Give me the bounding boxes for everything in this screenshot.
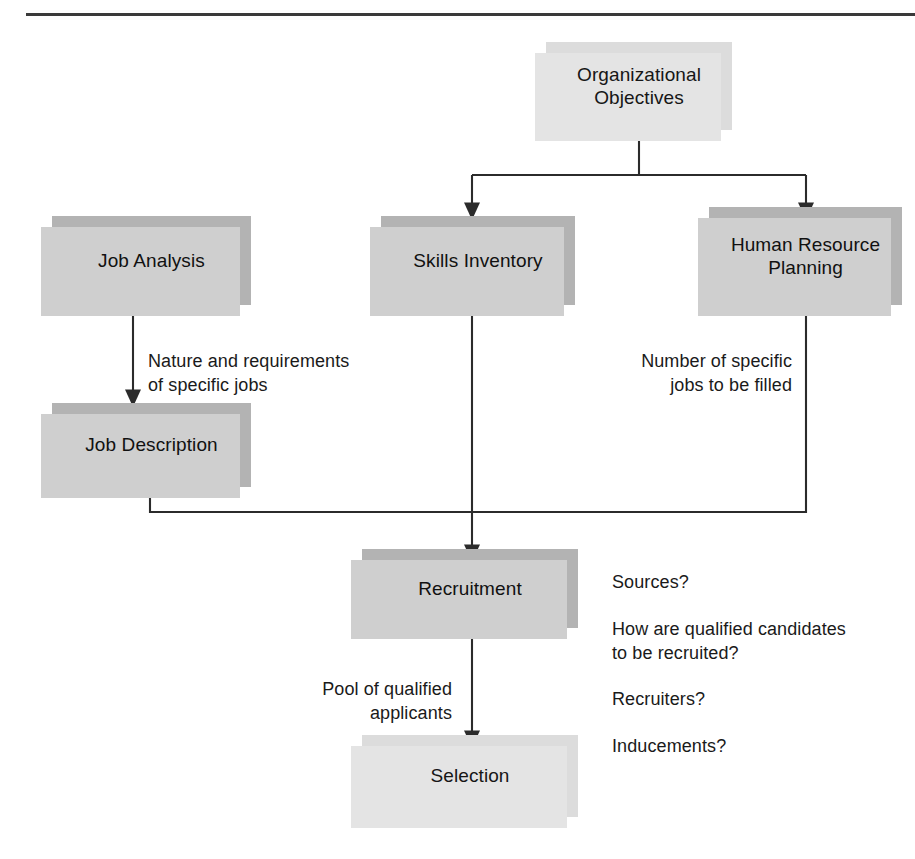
annotation-number-of-specific-jobs: Number of specific jobs to be filled — [570, 327, 792, 397]
annotation-text: Number of specific jobs to be filled — [641, 351, 792, 394]
node-label: Job Analysis — [92, 249, 211, 272]
node-recruitment[interactable]: Recruitment — [362, 549, 578, 628]
node-organizational-objectives[interactable]: Organizational Objectives — [546, 42, 732, 130]
node-skills-inventory[interactable]: Skills Inventory — [381, 216, 575, 305]
node-human-resource-planning[interactable]: Human Resource Planning — [709, 207, 902, 305]
diagram-canvas: Organizational Objectives Job Analysis S… — [0, 0, 915, 859]
node-selection[interactable]: Selection — [362, 735, 578, 817]
recruitment-questions-list: Sources? How are qualified candidates to… — [612, 548, 902, 782]
node-label: Selection — [424, 764, 515, 787]
annotation-pool-of-qualified-applicants: Pool of qualified applicants — [228, 655, 452, 725]
recruitment-question-recruiters: Recruiters? — [612, 688, 902, 711]
node-job-description[interactable]: Job Description — [52, 403, 251, 487]
node-label: Skills Inventory — [407, 249, 548, 272]
node-job-analysis[interactable]: Job Analysis — [52, 216, 251, 305]
recruitment-question-how-recruited: How are qualified candidates to be recru… — [612, 618, 902, 665]
annotation-text: Pool of qualified applicants — [322, 679, 452, 722]
recruitment-question-sources: Sources? — [612, 571, 902, 594]
recruitment-question-inducements: Inducements? — [612, 735, 902, 758]
node-label: Organizational Objectives — [571, 63, 707, 109]
node-label: Human Resource Planning — [725, 233, 886, 279]
node-label: Recruitment — [412, 577, 528, 600]
annotation-text: Nature and requirements of specific jobs — [148, 351, 349, 394]
annotation-nature-and-requirements: Nature and requirements of specific jobs — [148, 327, 398, 397]
node-label: Job Description — [79, 433, 223, 456]
